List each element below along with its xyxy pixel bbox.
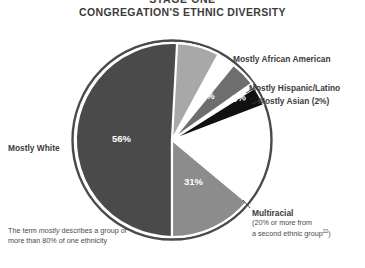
slice-value-mostly-hispanic-latino: 3% [231, 91, 246, 104]
callout-label-mostly-asian: Mostly Asian (2%) [258, 96, 329, 107]
callout-label-mostly-african-american: Mostly African American [233, 54, 331, 65]
slice-value-multiracial: 31% [184, 176, 203, 187]
multiracial-note-line2-close: ) [328, 229, 330, 238]
multiracial-note-line1: (20% or more from [252, 218, 312, 227]
footnote: The term mostly describes a group of mor… [8, 226, 133, 245]
pie-slice-multiracial[interactable] [172, 140, 247, 237]
callout-label-mostly-hispanic-latino: Mostly Hispanic/Latino [249, 83, 340, 94]
slice-value-mostly-white: 56% [112, 133, 131, 144]
chart-canvas: STAGE ONE CONGREGATION'S ETHNIC DIVERSIT… [0, 0, 365, 268]
footnote-prefix: The term [8, 226, 39, 235]
callout-label-multiracial: Multiracial [252, 208, 293, 219]
multiracial-note-line2-text: a second ethnic group [252, 229, 323, 238]
slice-value-mostly-african-american: 8% [201, 90, 215, 101]
multiracial-note-line2: a second ethnic group22) [252, 227, 331, 238]
pie-slices [76, 43, 264, 237]
footnote-emphasis: mostly [39, 226, 60, 235]
callout-label-mostly-white: Mostly White [8, 143, 60, 154]
